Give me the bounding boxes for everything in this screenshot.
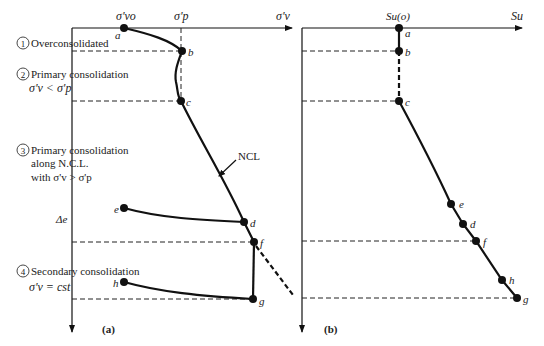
ncl-extension xyxy=(256,246,293,295)
stage-3: 3 Primary consolidation along N.C.L. wit… xyxy=(17,144,129,183)
b-point-c-label: c xyxy=(405,96,410,108)
stage-annotations: 1 Overconsolidated 2 Primary consolidati… xyxy=(17,37,140,294)
point-b-label: b xyxy=(188,46,194,58)
stage-3-line-1: along N.C.L. xyxy=(31,157,89,169)
b-point-f-label: f xyxy=(483,236,488,248)
point-a-label: a xyxy=(115,29,121,41)
su-axis-label: Su xyxy=(511,9,523,23)
panel-a-caption: (a) xyxy=(102,323,115,336)
sigma-v-axis-label: σ'v xyxy=(276,9,290,23)
b-point-e-label: e xyxy=(459,198,464,210)
ncl-label: NCL xyxy=(238,150,260,162)
stage-1: 1 Overconsolidated xyxy=(17,37,109,49)
point-e-label: e xyxy=(114,203,119,215)
point-g-label: g xyxy=(259,295,265,307)
stage-2-number: 2 xyxy=(21,70,26,80)
b-point-h-label: h xyxy=(509,274,515,286)
panel-a-curves xyxy=(124,28,254,299)
point-h-label: h xyxy=(113,277,119,289)
b-point-b-label: b xyxy=(405,46,411,58)
sigma-p-label: σ'p xyxy=(174,9,188,23)
stage-1-title: Overconsolidated xyxy=(31,37,109,49)
panel-b-guides xyxy=(302,51,517,298)
stage-1-number: 1 xyxy=(21,39,26,49)
point-d-label: d xyxy=(250,217,256,229)
stage-2: 2 Primary consolidation σ'v < σ'p xyxy=(17,68,129,95)
su-o-label: Su(o) xyxy=(386,10,410,23)
b-point-a-label: a xyxy=(405,27,411,39)
delta-e-label: Δe xyxy=(55,213,67,225)
sigma-vo-label: σ'vo xyxy=(116,9,136,23)
panel-b-curves xyxy=(399,28,517,298)
stage-3-title: Primary consolidation xyxy=(31,144,129,156)
panel-b-caption: (b) xyxy=(324,323,338,336)
ncl-pointer xyxy=(219,160,236,176)
b-point-g-label: g xyxy=(523,293,529,305)
stage-3-number: 3 xyxy=(21,146,26,156)
panel-b: a b c e d f h g Su(o) Su (b) xyxy=(302,9,529,336)
stage-4-number: 4 xyxy=(21,267,26,277)
panel-b-points xyxy=(395,24,521,302)
panel-a-points xyxy=(120,24,258,303)
stage-2-title: Primary consolidation xyxy=(31,68,129,80)
stage-4-condition: σ'v = cst xyxy=(29,280,71,294)
point-f-label: f xyxy=(260,237,265,249)
stage-3-line-2: with σ'v > σ'p xyxy=(31,171,92,183)
stage-2-condition: σ'v < σ'p xyxy=(29,81,71,95)
point-c-label: c xyxy=(186,96,191,108)
b-point-d-label: d xyxy=(470,218,476,230)
consolidation-diagram: NCL a b c d e f g h σ'vo σ'p σ'v Δe (a xyxy=(0,0,544,346)
stage-4-title: Secondary consolidation xyxy=(31,265,140,277)
